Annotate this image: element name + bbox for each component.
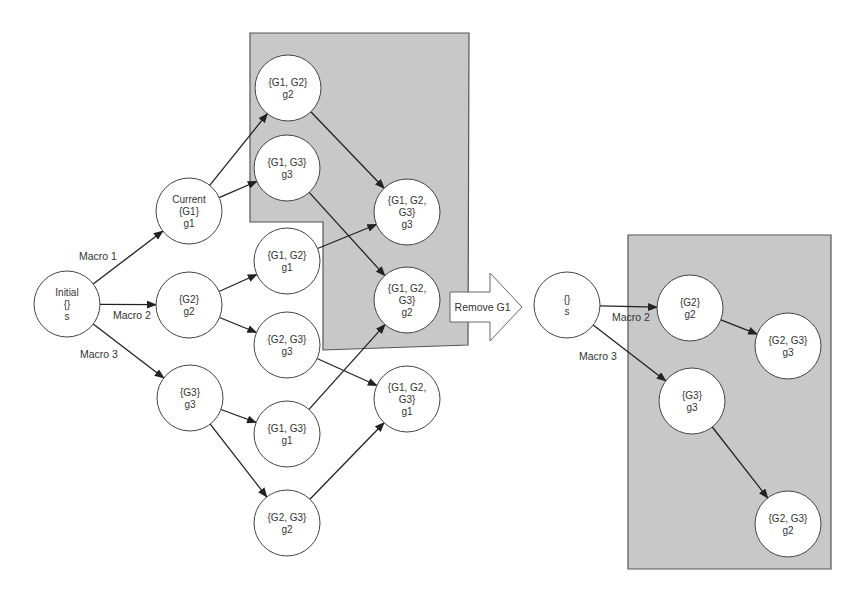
node-label-line: s bbox=[565, 306, 570, 317]
node-label-line: G3} bbox=[399, 295, 416, 306]
node-label-line: {G2, G3} bbox=[268, 512, 308, 523]
node-label-line: {G2, G3} bbox=[769, 335, 809, 346]
node-g1g2-g2: {G1, G2}g2 bbox=[255, 55, 321, 121]
node-g1g2g3-g3: {G1, G2,G3}g3 bbox=[374, 179, 440, 245]
node-label-line: g2 bbox=[684, 309, 696, 320]
node-g1g3-g1: {G1, G3}g1 bbox=[254, 401, 320, 467]
node-label-line: g1 bbox=[401, 406, 413, 417]
node-label-line: g1 bbox=[281, 262, 293, 273]
node-g1g2-g1: {G1, G2}g1 bbox=[254, 228, 320, 294]
node-g1g2g3-g2: {G1, G2,G3}g2 bbox=[374, 267, 440, 333]
edge-arrow-g3-to-g1g3-g1 bbox=[221, 410, 256, 423]
node-label-line: {G2, G3} bbox=[769, 513, 809, 524]
node-label-line: g3 bbox=[686, 402, 698, 413]
node-label-line: g2 bbox=[401, 307, 413, 318]
edge-arrow-g2g3-g3-to-g1g2g3-g1 bbox=[317, 359, 377, 386]
node-g1g3-g3: {G1, G3}g3 bbox=[254, 135, 320, 201]
node-g2: {G2}g2 bbox=[156, 272, 222, 338]
node-label-line: g1 bbox=[183, 218, 195, 229]
node-g1g2g3-g1: {G1, G2,G3}g1 bbox=[374, 366, 440, 432]
node-r-g2g3-g3: {G2, G3}g3 bbox=[755, 313, 821, 379]
transition-label: Remove G1 bbox=[455, 301, 511, 313]
node-label-line: {G3} bbox=[682, 390, 703, 401]
node-label-line: {G1, G2, bbox=[388, 382, 426, 393]
node-label-line: G3} bbox=[399, 207, 416, 218]
node-label-line: G3} bbox=[399, 394, 416, 405]
node-label-line: {G2, G3} bbox=[268, 334, 308, 345]
node-label-line: {G1, G2, bbox=[388, 195, 426, 206]
edge-label-macro-1: Macro 1 bbox=[79, 250, 117, 262]
node-label-line: g3 bbox=[782, 347, 794, 358]
node-label-line: g3 bbox=[281, 169, 293, 180]
node-label-line: g2 bbox=[282, 89, 294, 100]
macro-search-diagram: Macro 1Macro 2Macro 3 Macro 2Macro 3 Ini… bbox=[0, 0, 862, 596]
node-current-g1: Current{G1}g1 bbox=[156, 178, 222, 244]
edge-label-macro-2: Macro 2 bbox=[612, 311, 650, 323]
node-label-line: s bbox=[65, 311, 70, 322]
node-g2g3-g2: {G2, G3}g2 bbox=[254, 490, 320, 556]
edge-arrow-g2-to-g1g2-g1 bbox=[219, 275, 257, 292]
node-label-line: {G1, G2, bbox=[388, 283, 426, 294]
node-label-line: {G2} bbox=[680, 297, 701, 308]
node-label-line: Current bbox=[172, 194, 206, 205]
node-label-line: {G3} bbox=[180, 387, 201, 398]
edge-label-macro-3: Macro 3 bbox=[579, 350, 617, 362]
node-g2g3-g3: {G2, G3}g3 bbox=[254, 312, 320, 378]
node-r-s: {}s bbox=[534, 272, 600, 338]
node-label-line: g2 bbox=[782, 525, 794, 536]
node-label-line: g3 bbox=[401, 219, 413, 230]
node-label-line: Initial bbox=[55, 287, 78, 298]
node-label-line: {G1, G3} bbox=[268, 157, 308, 168]
node-label-line: {G2} bbox=[179, 294, 200, 305]
edge-arrow-g2g3-g2-to-g1g2g3-g1 bbox=[310, 423, 384, 500]
node-label-line: {G1} bbox=[179, 206, 200, 217]
node-r-g2g3-g2: {G2, G3}g2 bbox=[755, 491, 821, 557]
node-label-line: {} bbox=[64, 299, 71, 310]
node-label-line: {G1, G2} bbox=[269, 77, 309, 88]
node-label-line: g2 bbox=[281, 524, 293, 535]
node-r-g2: {G2}g2 bbox=[657, 275, 723, 341]
node-g3: {G3}g3 bbox=[157, 365, 223, 431]
node-label-line: g3 bbox=[184, 399, 196, 410]
node-label-line: g2 bbox=[183, 306, 195, 317]
edge-label-macro-2: Macro 2 bbox=[113, 309, 151, 321]
node-r-g3: {G3}g3 bbox=[659, 368, 725, 434]
node-label-line: {} bbox=[564, 294, 571, 305]
edge-arrow-g2-to-g2g3-g3 bbox=[220, 318, 257, 333]
node-label-line: {G1, G2} bbox=[268, 250, 308, 261]
node-label-line: g1 bbox=[281, 435, 293, 446]
node-label-line: g3 bbox=[281, 346, 293, 357]
node-initial: Initial{}s bbox=[34, 271, 100, 337]
edge-label-macro-3: Macro 3 bbox=[80, 348, 118, 360]
node-label-line: {G1, G3} bbox=[268, 423, 308, 434]
